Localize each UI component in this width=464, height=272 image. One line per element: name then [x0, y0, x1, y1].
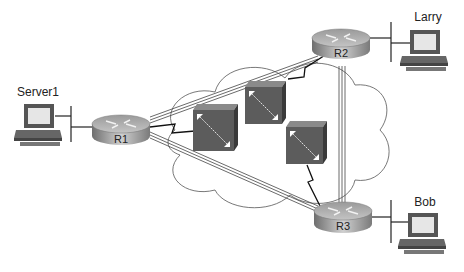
router-r2-label: R2 [334, 47, 348, 59]
router-r3-label: R3 [336, 220, 350, 232]
frame-relay-switch-1 [193, 104, 238, 151]
router-r1-label: R1 [114, 133, 128, 145]
pc-larry[interactable]: Larry [400, 10, 448, 71]
pc-server1-label: Server1 [17, 85, 59, 99]
network-diagram: R1 R2 R3 Server1 Larry [0, 0, 464, 272]
pc-bob-label: Bob [414, 195, 436, 209]
router-r3[interactable]: R3 [314, 202, 372, 233]
router-r1[interactable]: R1 [92, 115, 150, 145]
frame-relay-switch-2 [245, 81, 286, 124]
pc-bob[interactable]: Bob [398, 195, 446, 254]
ethernet-bob-r3 [370, 200, 408, 243]
pc-server1[interactable]: Server1 [14, 85, 62, 146]
pc-larry-label: Larry [414, 10, 441, 24]
router-r2[interactable]: R2 [312, 29, 370, 59]
frame-relay-switch-3 [286, 121, 327, 164]
